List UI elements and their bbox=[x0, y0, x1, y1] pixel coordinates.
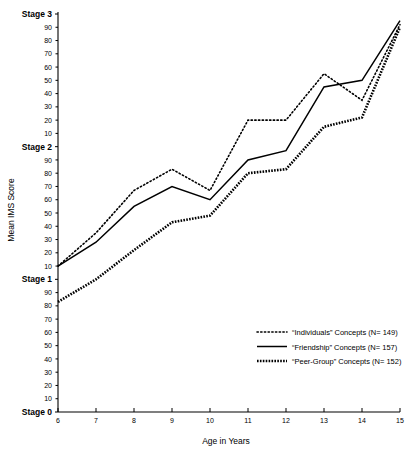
x-axis-tick-label: 15 bbox=[396, 417, 404, 424]
legend-label-3: “Peer-Group” Concepts (N= 152) bbox=[292, 357, 402, 366]
x-axis-tick-label: 7 bbox=[94, 417, 98, 424]
y-axis-tick-label: 40 bbox=[44, 90, 52, 97]
y-axis-ticks: Stage 0102030405060708090Stage 110203040… bbox=[22, 9, 58, 417]
series-line-2 bbox=[58, 21, 400, 266]
y-axis-tick-label: 50 bbox=[44, 210, 52, 217]
y-axis-stage-label: Stage 3 bbox=[22, 9, 53, 19]
y-axis-tick-label: 40 bbox=[44, 356, 52, 363]
chart-figure: Stage 0102030405060708090Stage 110203040… bbox=[0, 0, 416, 453]
series-line-3 bbox=[58, 27, 400, 302]
y-axis-title: Mean IMS Score bbox=[6, 178, 16, 242]
y-axis-tick-label: 60 bbox=[44, 196, 52, 203]
x-axis-tick-label: 6 bbox=[56, 417, 60, 424]
y-axis-tick-label: 70 bbox=[44, 50, 52, 57]
x-axis-tick-label: 11 bbox=[244, 417, 251, 424]
y-axis-tick-label: 60 bbox=[44, 64, 52, 71]
x-axis-ticks: 6789101112131415 bbox=[56, 408, 404, 424]
x-axis-title: Age in Years bbox=[202, 436, 250, 446]
y-axis-tick-label: 90 bbox=[44, 289, 52, 296]
chart-legend: “Individuals” Concepts (N= 149)“Friendsh… bbox=[257, 328, 402, 366]
axis-lines bbox=[58, 12, 400, 412]
y-axis-tick-label: 90 bbox=[44, 157, 52, 164]
y-axis-tick-label: 50 bbox=[44, 77, 52, 84]
y-axis-tick-label: 30 bbox=[44, 236, 52, 243]
y-axis-tick-label: 80 bbox=[44, 302, 52, 309]
y-axis-tick-label: 80 bbox=[44, 170, 52, 177]
x-axis-tick-label: 9 bbox=[170, 417, 174, 424]
x-axis-tick-label: 8 bbox=[132, 417, 136, 424]
y-axis-tick-label: 90 bbox=[44, 24, 52, 31]
y-axis-tick-label: 20 bbox=[44, 382, 52, 389]
ims-score-line-chart: Stage 0102030405060708090Stage 110203040… bbox=[0, 0, 416, 453]
y-axis-tick-label: 30 bbox=[44, 369, 52, 376]
x-axis-tick-label: 13 bbox=[320, 417, 328, 424]
y-axis-tick-label: 10 bbox=[44, 263, 52, 270]
y-axis-tick-label: 10 bbox=[44, 395, 52, 402]
y-axis-tick-label: 40 bbox=[44, 223, 52, 230]
x-axis-tick-label: 12 bbox=[282, 417, 290, 424]
y-axis-tick-label: 10 bbox=[44, 130, 52, 137]
y-axis-tick-label: 20 bbox=[44, 249, 52, 256]
y-axis-tick-label: 20 bbox=[44, 117, 52, 124]
legend-label-1: “Individuals” Concepts (N= 149) bbox=[292, 328, 398, 337]
x-axis-tick-label: 14 bbox=[358, 417, 366, 424]
legend-label-2: “Friendship” Concepts (N= 157) bbox=[292, 343, 398, 352]
x-axis-tick-label: 10 bbox=[206, 417, 214, 424]
y-axis-tick-label: 70 bbox=[44, 316, 52, 323]
y-axis-stage-label: Stage 2 bbox=[22, 142, 53, 152]
y-axis-stage-label: Stage 0 bbox=[22, 407, 53, 417]
y-axis-tick-label: 30 bbox=[44, 103, 52, 110]
y-axis-tick-label: 80 bbox=[44, 37, 52, 44]
y-axis-stage-label: Stage 1 bbox=[22, 274, 53, 284]
y-axis-tick-label: 60 bbox=[44, 329, 52, 336]
data-series-group bbox=[58, 21, 400, 302]
y-axis-tick-label: 50 bbox=[44, 342, 52, 349]
y-axis-tick-label: 70 bbox=[44, 183, 52, 190]
